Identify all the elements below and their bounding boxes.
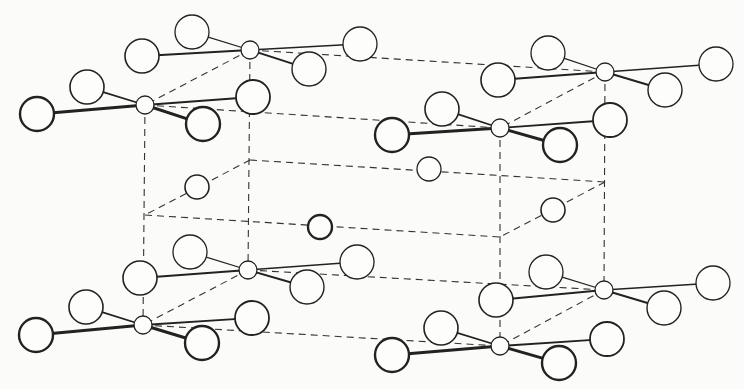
central-atom — [136, 96, 154, 114]
central-atom — [491, 119, 509, 137]
bond — [143, 319, 242, 325]
interstitial-atom — [417, 157, 441, 181]
ligand-atom — [543, 128, 577, 162]
ligand-atom — [290, 270, 324, 304]
central-atom — [596, 63, 614, 81]
bond — [150, 270, 248, 277]
ligand-atom — [424, 311, 458, 345]
interstitial-atoms — [185, 157, 565, 239]
ligand-atom — [236, 80, 270, 114]
ligand-atom — [186, 107, 220, 141]
molecule-bottom-front-left — [19, 290, 269, 360]
ligand-atom — [19, 318, 53, 352]
central-atom — [491, 337, 509, 355]
ligand-atom — [125, 39, 159, 73]
ligand-atom — [479, 283, 513, 317]
bond — [402, 128, 500, 134]
ligand-atom — [185, 326, 219, 360]
molecule-top-back-left — [125, 15, 377, 86]
molecule-top-back-right — [481, 36, 733, 107]
ligand-atom — [481, 63, 515, 97]
bond — [46, 325, 143, 334]
central-atom — [239, 261, 257, 279]
ligand-atom — [531, 36, 565, 70]
bond — [500, 340, 597, 346]
ligand-atom — [175, 15, 209, 49]
central-atom — [134, 316, 152, 334]
ligand-atom — [375, 118, 409, 152]
ligand-atom — [542, 346, 576, 380]
ligand-atom — [235, 301, 269, 335]
ligand-atom — [647, 291, 681, 325]
ligand-atom — [696, 266, 730, 300]
bond — [248, 263, 347, 270]
ligand-atom — [292, 52, 326, 86]
ligand-atom — [343, 27, 377, 61]
cell-edge — [145, 50, 250, 105]
bond — [402, 346, 500, 354]
ligand-atom — [70, 70, 104, 104]
ligand-atom — [593, 103, 627, 137]
bond — [145, 98, 243, 105]
bond — [508, 72, 605, 79]
interstitial-atom — [308, 215, 332, 239]
central-atom — [595, 281, 613, 299]
bond — [605, 65, 706, 72]
ligand-atom — [529, 255, 563, 289]
ligand-atom — [173, 235, 207, 269]
central-atom — [241, 41, 259, 59]
ligand-atom — [699, 47, 733, 81]
interstitial-atom — [185, 175, 209, 199]
molecular-groups — [19, 15, 733, 380]
bond — [152, 50, 250, 55]
unit-cell-edges — [143, 50, 605, 346]
ligand-atom — [123, 261, 157, 295]
crystal-structure-diagram — [0, 0, 744, 389]
molecule-top-front-right — [375, 92, 627, 162]
bond — [47, 105, 145, 113]
ligand-atom — [425, 92, 459, 126]
ligand-atom — [648, 73, 682, 107]
interstitial-atom — [541, 198, 565, 222]
bond — [500, 121, 600, 128]
ligand-atom — [20, 97, 54, 131]
ligand-atom — [590, 322, 624, 356]
ligand-atom — [69, 290, 103, 324]
ligand-atom — [375, 338, 409, 372]
bond — [604, 284, 703, 290]
bond — [250, 45, 350, 50]
cell-edge — [143, 270, 248, 325]
ligand-atom — [340, 245, 374, 279]
